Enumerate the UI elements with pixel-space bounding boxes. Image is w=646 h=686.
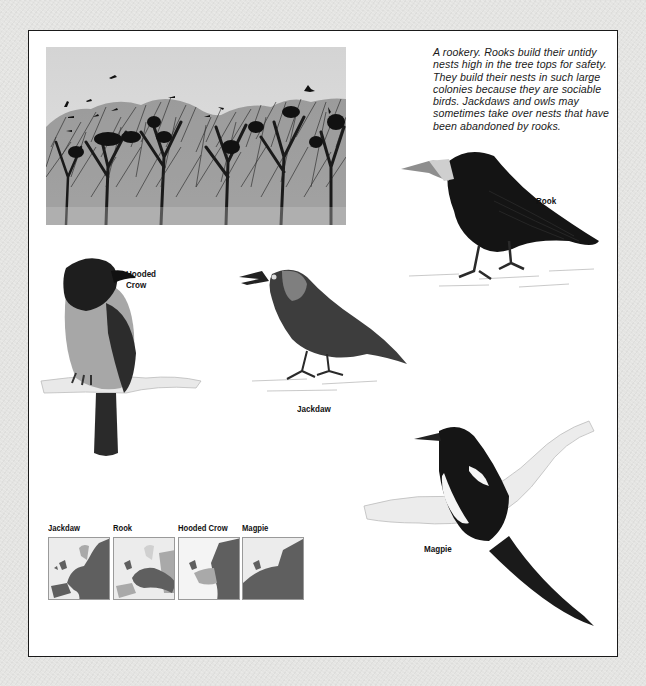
map-label-hooded-crow: Hooded Crow [178, 523, 228, 533]
jackdaw-illustration [237, 259, 412, 399]
hooded-crow-illustration [41, 258, 201, 456]
range-map-rook [113, 537, 175, 600]
range-map-jackdaw [48, 537, 110, 600]
hooded-crow-label-line2: Crow [126, 280, 156, 291]
hooded-crow-label: Hooded Crow [126, 269, 156, 290]
book-page: A rookery. Rooks build their untidy nest… [28, 30, 618, 657]
map-label-jackdaw: Jackdaw [48, 523, 80, 533]
rook-label: Rook [536, 196, 556, 207]
range-map-magpie [242, 537, 304, 600]
range-map-hooded-crow [178, 537, 240, 600]
hooded-crow-label-line1: Hooded [126, 269, 156, 280]
magpie-label: Magpie [424, 544, 452, 555]
map-label-rook: Rook [113, 523, 132, 533]
rookery-photo [46, 47, 346, 225]
magpie-illustration [359, 411, 609, 631]
map-label-magpie: Magpie [242, 523, 268, 533]
rookery-caption: A rookery. Rooks build their untidy nest… [433, 46, 618, 132]
jackdaw-label: Jackdaw [297, 404, 331, 415]
rook-illustration [399, 141, 604, 291]
